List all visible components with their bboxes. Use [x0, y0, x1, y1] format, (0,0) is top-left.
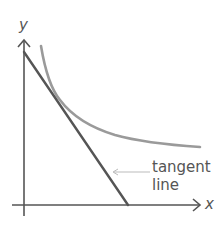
curve — [41, 46, 200, 147]
diagram-graphics — [0, 0, 223, 230]
tangent-line — [24, 52, 128, 205]
annotation-line1: tangent — [152, 160, 211, 175]
tangent-line-diagram: y x tangent line — [0, 0, 223, 230]
annotation-line2: line — [152, 178, 179, 193]
x-axis-label: x — [205, 197, 214, 212]
y-axis-label: y — [19, 18, 28, 33]
